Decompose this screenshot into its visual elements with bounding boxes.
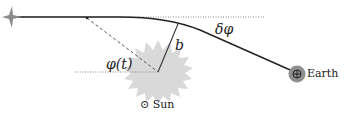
path-point — [86, 17, 89, 20]
earth-icon — [289, 66, 306, 83]
sun-label-text: Sun — [153, 98, 175, 111]
angle-phi-t-label: φ(t) — [106, 57, 132, 71]
impact-parameter-label: b — [175, 38, 184, 52]
star-icon — [2, 6, 22, 28]
earth-label: Earth — [307, 68, 338, 79]
sun-symbol-icon: ⊙ — [140, 98, 149, 111]
deflection-angle-label: δφ — [215, 22, 233, 36]
diagram-canvas — [0, 0, 350, 122]
light-deflection-diagram: b δφ φ(t) ⊙ Sun Earth — [0, 0, 350, 122]
sun-label: ⊙ Sun — [140, 99, 174, 110]
